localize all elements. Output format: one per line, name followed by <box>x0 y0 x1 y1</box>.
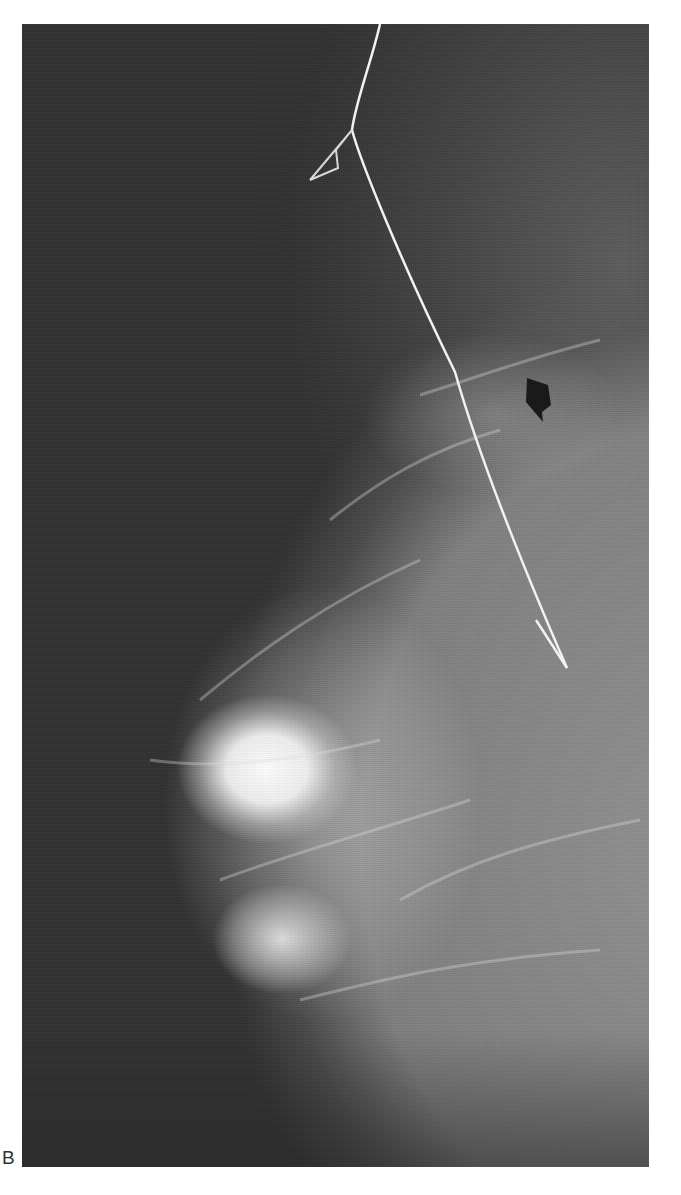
arrow-marker-icon <box>526 378 551 422</box>
hookwire <box>352 24 567 668</box>
mammogram-image <box>22 24 649 1167</box>
wire-hook-bottom <box>536 620 567 668</box>
wire-hook-top <box>310 130 352 180</box>
panel-label: B <box>2 1148 15 1168</box>
wire-overlay <box>22 24 649 1167</box>
fibrous-strands <box>150 340 640 1000</box>
